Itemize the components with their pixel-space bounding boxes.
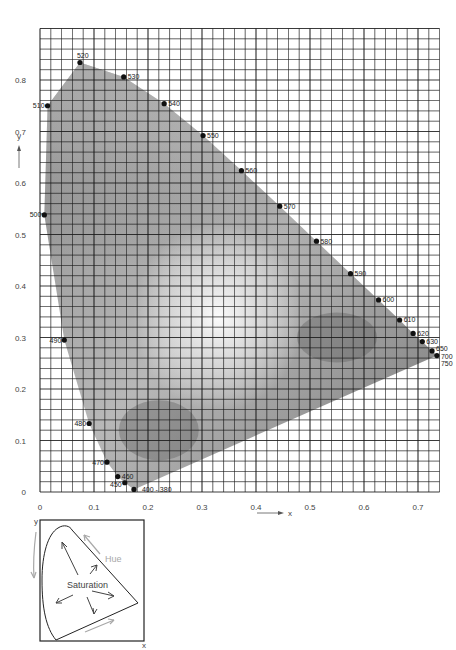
y-axis-label: y (17, 132, 21, 141)
y-tick-label: 0.6 (15, 179, 27, 188)
wavelength-point: 490 (50, 337, 67, 344)
hue-label: Hue (105, 554, 122, 564)
wavelength-point: 750 (441, 360, 453, 367)
svg-text:500: 500 (30, 211, 42, 218)
wavelength-point: 620 (411, 330, 429, 337)
svg-text:490: 490 (50, 337, 62, 344)
y-tick-label: 0.5 (15, 231, 27, 240)
svg-text:540: 540 (168, 100, 180, 107)
saturation-label: Saturation (67, 580, 108, 590)
svg-text:560: 560 (245, 167, 257, 174)
svg-text:600: 600 (383, 296, 395, 303)
wavelength-point: 610 (397, 316, 415, 323)
inset-y-label: y (34, 518, 38, 526)
wavelength-point: 600 (376, 296, 394, 303)
y-tick-label: 0 (22, 488, 27, 497)
y-axis-arrow-icon (17, 145, 21, 168)
wavelength-point: 580 (314, 238, 332, 245)
wavelength-point: 470 (92, 459, 109, 466)
y-tick-label: 0.4 (15, 282, 27, 291)
svg-text:570: 570 (284, 203, 296, 210)
chromaticity-chart: 400 - 3804504604704804905005105205305405… (0, 0, 456, 518)
wavelength-point: 500 (30, 211, 47, 218)
x-tick-label: 0.4 (250, 503, 262, 512)
wavelength-point: 570 (277, 203, 295, 210)
wavelength-point: 560 (239, 167, 257, 174)
saturation-arrows-icon (56, 542, 114, 614)
wavelength-point: 540 (162, 100, 180, 107)
svg-text:610: 610 (404, 316, 416, 323)
wavelength-point: 480 (74, 420, 91, 427)
wavelength-point: 450 (110, 480, 127, 488)
svg-text:460: 460 (122, 473, 134, 480)
svg-text:620: 620 (417, 330, 429, 337)
wavelength-point: 630 (420, 338, 438, 345)
wavelength-point: 510 (33, 102, 50, 109)
y-tick-label: 0.8 (15, 76, 27, 85)
x-axis-label: x (288, 509, 292, 518)
svg-text:520: 520 (77, 52, 89, 59)
y-tick-label: 0.3 (15, 334, 27, 343)
x-tick-label: 0.3 (196, 503, 208, 512)
wavelength-point: 590 (348, 270, 366, 277)
wavelength-point: 550 (200, 132, 218, 139)
x-tick-label: 0.2 (142, 503, 154, 512)
svg-text:590: 590 (355, 270, 367, 277)
svg-text:630: 630 (426, 338, 438, 345)
x-tick-label: 0.1 (88, 503, 100, 512)
y-tick-label: 0.1 (15, 437, 27, 446)
svg-text:450: 450 (110, 481, 122, 488)
spectral-locus-region (40, 18, 440, 489)
x-tick-label: 0 (38, 503, 43, 512)
svg-text:650: 650 (436, 345, 448, 352)
svg-text:510: 510 (33, 102, 45, 109)
inset-x-label: x (142, 641, 146, 650)
svg-text:470: 470 (92, 459, 104, 466)
svg-text:750: 750 (441, 360, 453, 367)
hue-saturation-inset: y x Hue Saturation (0, 518, 160, 650)
svg-text:480: 480 (74, 420, 86, 427)
x-tick-label: 0.6 (358, 503, 370, 512)
svg-text:550: 550 (207, 132, 219, 139)
wavelength-point: 460 (115, 473, 133, 480)
y-tick-label: 0.2 (15, 385, 27, 394)
x-tick-label: 0.5 (304, 503, 316, 512)
svg-text:580: 580 (320, 238, 332, 245)
svg-text:400 - 380: 400 - 380 (142, 486, 172, 493)
svg-text:530: 530 (128, 73, 140, 80)
x-tick-label: 0.7 (412, 503, 424, 512)
wavelength-point: 530 (121, 73, 139, 80)
